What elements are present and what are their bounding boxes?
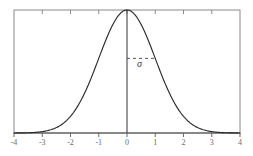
bottom-tick-marks	[14, 133, 240, 137]
xtick-label-1: 1	[147, 139, 163, 147]
xtick-label-neg4: -4	[6, 139, 22, 147]
xtick-label-neg1: -1	[91, 139, 107, 147]
gaussian-figure: σ -4 -3 -2 -1 0 1 2 3 4	[0, 0, 253, 156]
plot-canvas	[0, 0, 253, 156]
xtick-label-4: 4	[232, 139, 248, 147]
xtick-label-neg2: -2	[63, 139, 79, 147]
xtick-label-3: 3	[204, 139, 220, 147]
xtick-label-neg3: -3	[34, 139, 50, 147]
xtick-label-0: 0	[119, 139, 135, 147]
xtick-label-2: 2	[176, 139, 192, 147]
sigma-label: σ	[137, 59, 142, 69]
